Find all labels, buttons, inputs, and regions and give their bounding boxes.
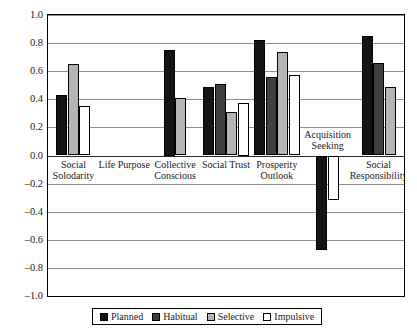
legend-swatch-impulsive-icon [263,313,271,321]
bar-planned [56,95,67,155]
bar-selective [277,52,288,156]
coefficients-bar-chart: Coefficients 1.00.80.60.40.20.0–0.2–0.4–… [0,0,417,331]
bar-group [353,15,404,296]
bar-planned [254,40,265,155]
bar-impulsive [328,156,339,201]
legend-swatch-habitual-icon [152,313,160,321]
bar-group [201,15,252,296]
bar-planned [203,87,214,156]
chart-legend: PlannedHabitualSelectiveImpulsive [92,308,322,325]
bar-planned [164,50,175,155]
bar-group [302,15,353,296]
grid-and-bars: Social SolodarityLife PurposeCollective … [48,15,404,296]
bar-habitual [266,77,277,156]
legend-swatch-planned-icon [100,313,108,321]
y-axis-tick-label: –0.6 [3,235,47,245]
bar-planned [362,36,373,155]
legend-item-selective[interactable]: Selective [207,311,255,322]
bar-selective [68,64,79,155]
y-axis-tick-label: –0.8 [3,263,47,273]
legend-label: Planned [111,311,143,322]
bar-habitual [373,63,384,156]
bar-impulsive [238,103,249,156]
bar-habitual [215,84,226,156]
y-axis-tick-label: 0.6 [3,66,47,76]
y-axis-tick-labels: 1.00.80.60.40.20.0–0.2–0.4–0.6–0.8–1.0 [0,14,47,297]
bar-impulsive [79,106,90,156]
legend-item-habitual[interactable]: Habitual [152,311,197,322]
bar-group [99,15,150,296]
y-axis-tick-label: 1.0 [3,10,47,20]
plot-area: Social SolodarityLife PurposeCollective … [47,14,405,297]
y-axis-tick-label: 0.4 [3,94,47,104]
y-axis-tick-label: –1.0 [3,291,47,301]
y-axis-tick-label: 0.8 [3,38,47,48]
y-axis-tick-label: 0.2 [3,122,47,132]
legend-item-impulsive[interactable]: Impulsive [263,311,314,322]
y-axis-tick-label: 0.0 [3,151,47,161]
gridline [48,296,404,297]
legend-label: Selective [218,311,255,322]
y-axis-tick-label: –0.4 [3,207,47,217]
legend-label: Habitual [163,311,197,322]
bar-selective [226,112,237,156]
bar-group [251,15,302,296]
bar-selective [175,98,186,156]
legend-item-planned[interactable]: Planned [100,311,143,322]
bar-selective [385,87,396,156]
bar-group [48,15,99,296]
bar-planned [316,156,327,250]
bar-impulsive [289,75,300,156]
legend-swatch-selective-icon [207,313,215,321]
legend-label: Impulsive [274,311,314,322]
y-axis-tick-label: –0.2 [3,179,47,189]
bar-group [150,15,201,296]
